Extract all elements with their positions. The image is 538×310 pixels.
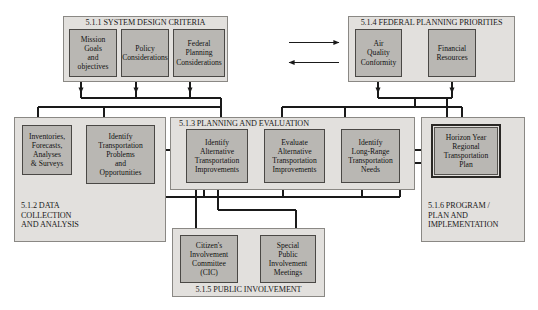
panel-title-512: 5.1.2 DATA COLLECTION AND ANALYSIS <box>21 201 141 230</box>
node-identify-transportation-problems[interactable]: Identify Transportation Problems and Opp… <box>86 125 155 184</box>
node-label-air: Air Quality Conformity <box>361 39 396 66</box>
panel-title-516: 5.1.6 PROGRAM / PLAN AND IMPLEMENTATION <box>428 201 523 230</box>
panel-title-515: 5.1.5 PUBLIC INVOLVEMENT <box>172 285 325 295</box>
node-air-quality-conformity[interactable]: Air Quality Conformity <box>355 29 402 77</box>
flowchart-diagram: 5.1.1 SYSTEM DESIGN CRITERIA Mission Goa… <box>0 0 538 310</box>
node-citizens-involvement-committee[interactable]: Citizen's Involvement Committee (CIC) <box>180 235 238 283</box>
node-policy-considerations[interactable]: Policy Considerations <box>121 29 169 77</box>
node-label-evalalt: Evaluate Alternative Transportation Impr… <box>272 138 316 174</box>
panel-title-511: 5.1.1 SYSTEM DESIGN CRITERIA <box>63 18 228 28</box>
node-label-cic: Citizen's Involvement Committee (CIC) <box>190 241 228 277</box>
node-special-public-involvement-meetings[interactable]: Special Public Involvement Meetings <box>260 235 316 283</box>
node-identify-long-range-needs[interactable]: Identify Long-Range Transportation Needs <box>341 129 400 183</box>
node-horizon-year-plan[interactable]: Horizon Year Regional Transportation Pla… <box>431 124 501 178</box>
node-federal-planning-considerations[interactable]: Federal Planning Considerations <box>173 29 225 77</box>
node-label-special: Special Public Involvement Meetings <box>269 241 307 277</box>
node-financial-resources[interactable]: Financial Resources <box>428 29 476 77</box>
panel-title-514: 5.1.4 FEDERAL PLANNING PRIORITIES <box>348 18 515 28</box>
node-label-finance: Financial Resources <box>436 44 467 62</box>
node-label-fedplan: Federal Planning Considerations <box>176 39 222 66</box>
node-label-longrange: Identify Long-Range Transportation Needs <box>348 138 392 174</box>
node-inventories-forecasts[interactable]: Inventories, Forecasts, Analyses & Surve… <box>22 125 72 175</box>
node-label-horizon: Horizon Year Regional Transportation Pla… <box>444 133 488 169</box>
node-identify-alternative-improvements[interactable]: Identify Alternative Transportation Impr… <box>186 129 248 183</box>
node-evaluate-alternative-improvements[interactable]: Evaluate Alternative Transportation Impr… <box>264 129 325 183</box>
node-mission-goals[interactable]: Mission Goals and objectives <box>69 29 117 77</box>
node-label-identprob: Identify Transportation Problems and Opp… <box>98 132 142 177</box>
node-label-inventories: Inventories, Forecasts, Analyses & Surve… <box>29 132 65 168</box>
node-label-identalt: Identify Alternative Transportation Impr… <box>195 138 239 174</box>
node-label-policy: Policy Considerations <box>122 44 168 62</box>
node-label-mission: Mission Goals and objectives <box>78 35 109 71</box>
panel-title-513: 5.1.3 PLANNING AND EVALUATION <box>179 119 415 129</box>
